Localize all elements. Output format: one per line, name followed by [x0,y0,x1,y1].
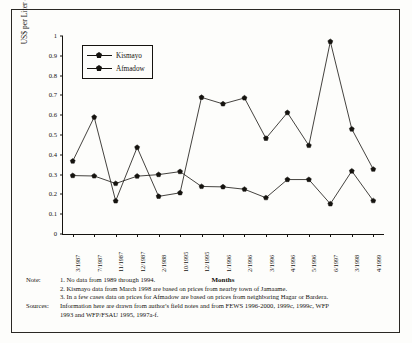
x-tick-mark [352,234,353,237]
x-tick-label: 11/1987 [118,252,124,272]
y-tick-label: 0.5 [49,132,57,139]
data-point [285,177,290,182]
x-tick-label: 4/1999 [376,255,382,272]
data-point [242,95,247,100]
sources-label: Sources: [26,302,60,311]
x-tick-label: 3/1998 [354,255,360,272]
x-axis-tick-marks [62,234,384,238]
y-tick-label: 0 [54,231,57,238]
y-axis-title: US$ per Liter of Camel Milk [20,0,29,70]
sources-line-2: 1993 and WFP/FSAU 1995, 1997a-f. [26,311,390,320]
note-row: 3. In a few cases data on prices for Afm… [26,293,390,302]
data-point [221,101,226,106]
x-tick-mark [287,234,288,237]
x-tick-label: 12/1995 [204,252,210,272]
x-tick-label: 6/1997 [333,255,339,272]
data-point [70,173,75,178]
legend-label-afmadow: Afmadow [116,65,145,73]
data-point [242,187,247,192]
x-tick-mark [94,234,95,237]
x-tick-mark [159,234,160,237]
data-point [221,184,226,189]
data-point [113,198,118,203]
x-tick-label: 2/1996 [247,255,253,272]
plot-area: US$ per Liter of Camel Milk 00.10.20.30.… [24,18,390,248]
x-tick-mark [202,234,203,237]
y-axis-ticks: 00.10.20.30.40.50.60.70.80.91 [38,36,60,234]
note-label: Note: [26,276,60,285]
note-item-1: 1. No data from 1989 through 1994. [60,276,390,285]
data-point [70,159,75,164]
data-point [178,190,183,195]
note-item-3: 3. In a few cases data on prices for Afm… [60,293,390,302]
note-row: Note: 1. No data from 1989 through 1994. [26,276,390,285]
x-tick-mark [116,234,117,237]
x-axis-tick-labels: 3/19877/198711/198712/19872/198810/19951… [62,239,384,275]
x-tick-mark [180,234,181,237]
x-tick-label: 12/1987 [140,252,146,272]
x-tick-label: 3/1987 [75,255,81,272]
x-tick-mark [373,234,374,237]
data-point [156,194,161,199]
x-tick-label: 2/1988 [161,255,167,272]
x-tick-mark [330,234,331,237]
notes-block: Note: 1. No data from 1989 through 1994.… [26,276,390,320]
y-tick-label: 1 [54,33,57,40]
x-tick-mark [223,234,224,237]
x-tick-label: 10/1995 [183,252,189,272]
data-point [349,126,354,131]
data-point [306,177,311,182]
x-tick-label: 4/1996 [290,255,296,272]
data-point [199,95,204,100]
data-point [328,39,333,44]
chart-legend: Kismayo Afmadow [82,45,153,79]
y-tick-label: 0.7 [49,92,57,99]
legend-item-kismayo: Kismayo [87,49,145,62]
legend-marker-icon [87,64,112,73]
legend-marker-icon [87,51,112,60]
y-tick-label: 0.3 [49,171,57,178]
figure-page: US$ per Liter of Camel Milk 00.10.20.30.… [0,0,412,343]
x-tick-mark [137,234,138,237]
sources-line-1: Information here are drawn from author's… [60,302,390,311]
x-tick-label: 3/1996 [269,255,275,272]
x-tick-label: 5/1996 [311,255,317,272]
note-item-2: 2. Kismayo data from March 1998 are base… [60,285,390,294]
legend-item-afmadow: Afmadow [87,62,145,75]
y-tick-label: 0.4 [49,152,57,159]
data-point [135,174,140,179]
y-tick-label: 0.6 [49,112,57,119]
y-tick-label: 0.9 [49,53,57,60]
data-point [306,143,311,148]
x-tick-mark [73,234,74,237]
y-tick-label: 0.8 [49,72,57,79]
data-point [178,169,183,174]
data-point [113,181,118,186]
x-tick-mark [244,234,245,237]
data-point [199,184,204,189]
legend-label-kismayo: Kismayo [116,52,142,60]
sources-row: Sources: Information here are drawn from… [26,302,390,311]
data-point [371,167,376,172]
y-tick-label: 0.1 [49,211,57,218]
x-tick-label: 1/1996 [226,255,232,272]
x-tick-label: 7/1987 [97,255,103,272]
data-point [285,110,290,115]
note-row: 2. Kismayo data from March 1998 are base… [26,285,390,294]
data-point [135,145,140,150]
data-point [92,115,97,120]
data-point [92,173,97,178]
figure-border: US$ per Liter of Camel Milk 00.10.20.30.… [11,9,400,333]
data-point [349,168,354,173]
x-tick-mark [266,234,267,237]
y-tick-label: 0.2 [49,191,57,198]
x-tick-mark [309,234,310,237]
data-point [156,172,161,177]
